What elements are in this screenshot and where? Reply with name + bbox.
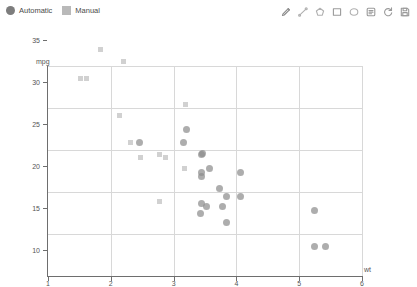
y-axis-tick-mark — [43, 250, 47, 251]
gridline-horizontal — [48, 234, 362, 235]
data-point-automatic[interactable] — [199, 150, 206, 157]
data-point-manual[interactable] — [78, 76, 83, 81]
x-axis-line — [47, 276, 363, 277]
data-point-automatic[interactable] — [223, 219, 230, 226]
x-axis-tick-mark — [362, 277, 363, 281]
x-axis-tick-label: 6 — [352, 280, 372, 287]
data-point-automatic[interactable] — [237, 193, 244, 200]
y-axis-tick-mark — [43, 166, 47, 167]
top-bar: Automatic Manual — [0, 0, 417, 26]
x-axis-tick-mark — [174, 277, 175, 281]
legend-item-automatic[interactable]: Automatic — [6, 6, 52, 15]
data-point-automatic[interactable] — [183, 126, 190, 133]
legend-item-manual[interactable]: Manual — [62, 6, 100, 15]
data-point-automatic[interactable] — [223, 193, 230, 200]
data-point-manual[interactable] — [117, 113, 122, 118]
rectangle-icon[interactable] — [330, 5, 344, 19]
y-axis-tick-mark — [43, 124, 47, 125]
legend-label-automatic: Automatic — [19, 6, 52, 15]
y-axis-tick-label: 10 — [14, 247, 40, 254]
x-axis-tick-label: 4 — [226, 280, 246, 287]
x-axis-tick-mark — [236, 277, 237, 281]
legend-label-manual: Manual — [75, 6, 100, 15]
x-axis-tick-mark — [299, 277, 300, 281]
save-icon[interactable] — [398, 5, 412, 19]
data-point-manual[interactable] — [128, 140, 133, 145]
y-axis-tick-mark — [43, 40, 47, 41]
data-point-manual[interactable] — [163, 155, 168, 160]
refresh-icon[interactable] — [381, 5, 395, 19]
y-axis-tick-label: 20 — [14, 163, 40, 170]
data-point-automatic[interactable] — [203, 203, 210, 210]
pencil-icon[interactable] — [279, 5, 293, 19]
polygon-icon[interactable] — [313, 5, 327, 19]
data-point-manual[interactable] — [157, 199, 162, 204]
note-icon[interactable] — [364, 5, 378, 19]
chart-canvas[interactable]: mpg wt 101520253035123456 — [0, 26, 417, 281]
data-point-automatic[interactable] — [206, 165, 213, 172]
gridline-vertical — [174, 66, 175, 276]
data-point-manual[interactable] — [138, 155, 143, 160]
gridline-vertical — [111, 66, 112, 276]
y-axis-tick-mark — [43, 82, 47, 83]
x-axis-tick-label: 3 — [164, 280, 184, 287]
x-axis-tick-label: 1 — [38, 280, 58, 287]
data-point-automatic[interactable] — [180, 139, 187, 146]
data-point-manual[interactable] — [121, 59, 126, 64]
y-axis-line — [47, 66, 48, 277]
data-point-automatic[interactable] — [219, 203, 226, 210]
gridline-horizontal — [48, 192, 362, 193]
data-point-manual[interactable] — [183, 102, 188, 107]
x-axis-tick-label: 5 — [289, 280, 309, 287]
line-icon[interactable] — [296, 5, 310, 19]
gridline-horizontal — [48, 108, 362, 109]
data-point-manual[interactable] — [98, 47, 103, 52]
gridline-vertical — [299, 66, 300, 276]
y-axis-tick-label: 15 — [14, 205, 40, 212]
data-point-manual[interactable] — [157, 152, 162, 157]
y-axis-tick-label: 35 — [14, 37, 40, 44]
gridline-horizontal — [48, 66, 362, 67]
y-axis-title: mpg — [36, 58, 50, 65]
x-axis-tick-mark — [111, 277, 112, 281]
x-axis-tick-mark — [48, 277, 49, 281]
y-axis-tick-label: 25 — [14, 121, 40, 128]
x-axis-title: wt — [364, 266, 371, 273]
legend-square-marker-icon — [62, 6, 71, 15]
gridline-vertical — [362, 66, 363, 276]
chart-legend: Automatic Manual — [6, 6, 100, 15]
x-axis-tick-label: 2 — [101, 280, 121, 287]
ellipse-icon[interactable] — [347, 5, 361, 19]
legend-circle-marker-icon — [6, 6, 15, 15]
y-axis-tick-mark — [43, 208, 47, 209]
data-point-manual[interactable] — [84, 76, 89, 81]
data-point-manual[interactable] — [182, 166, 187, 171]
y-axis-tick-label: 30 — [14, 79, 40, 86]
annotation-toolbar — [279, 5, 412, 19]
